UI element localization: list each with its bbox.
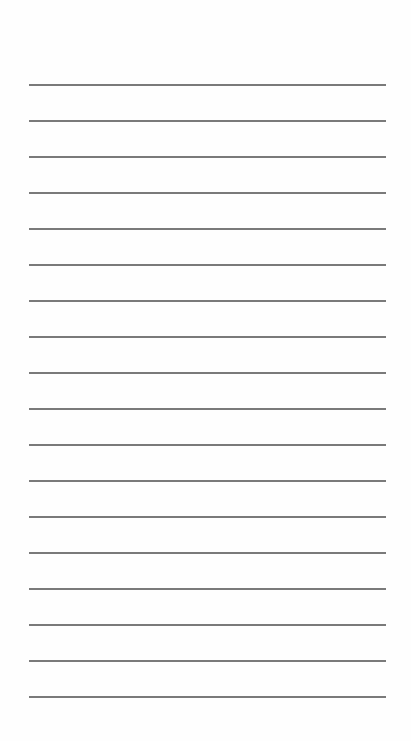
ruled-line [29, 228, 386, 230]
ruled-line [29, 192, 386, 194]
ruled-line [29, 516, 386, 518]
ruled-line [29, 552, 386, 554]
ruled-line [29, 336, 386, 338]
ruled-line [29, 696, 386, 698]
ruled-line [29, 480, 386, 482]
lined-paper-page [0, 0, 411, 741]
ruled-line [29, 84, 386, 86]
ruled-line [29, 300, 386, 302]
ruled-line [29, 588, 386, 590]
ruled-line [29, 264, 386, 266]
ruled-line [29, 444, 386, 446]
ruled-line [29, 156, 386, 158]
ruled-line [29, 660, 386, 662]
ruled-line [29, 120, 386, 122]
ruled-line [29, 624, 386, 626]
ruled-line [29, 408, 386, 410]
ruled-line [29, 372, 386, 374]
